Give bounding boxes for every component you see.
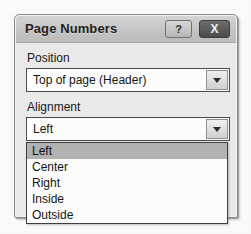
alignment-dropdown-arrow-button[interactable] bbox=[206, 119, 228, 139]
position-dropdown-arrow-button[interactable] bbox=[206, 70, 228, 90]
dropdown-option-label: Inside bbox=[32, 192, 64, 206]
alignment-dropdown-list[interactable]: LeftCenterRightInsideOutside bbox=[26, 142, 228, 224]
dropdown-option[interactable]: Left bbox=[27, 143, 227, 159]
dropdown-option-label: Right bbox=[32, 176, 60, 190]
dropdown-option-label: Left bbox=[32, 144, 52, 158]
alignment-combobox[interactable]: Left bbox=[26, 117, 230, 141]
close-button[interactable]: X bbox=[199, 20, 230, 38]
question-mark-icon: ? bbox=[175, 24, 182, 35]
alignment-combobox-value: Left bbox=[27, 122, 206, 136]
dropdown-option-label: Outside bbox=[32, 208, 73, 222]
alignment-label: Alignment bbox=[27, 100, 80, 114]
dropdown-option[interactable]: Inside bbox=[27, 191, 227, 207]
help-button[interactable]: ? bbox=[165, 20, 192, 38]
dropdown-option[interactable]: Outside bbox=[27, 207, 227, 223]
position-combobox-value: Top of page (Header) bbox=[27, 73, 206, 87]
close-x-icon: X bbox=[210, 23, 218, 35]
dialog-title: Page Numbers bbox=[25, 21, 117, 36]
dropdown-option-label: Center bbox=[32, 160, 68, 174]
dialog-titlebar[interactable]: Page Numbers ? X bbox=[16, 16, 236, 43]
position-combobox[interactable]: Top of page (Header) bbox=[26, 68, 230, 92]
chevron-down-icon bbox=[213, 127, 221, 132]
chevron-down-icon bbox=[213, 78, 221, 83]
position-label: Position bbox=[27, 51, 70, 65]
dropdown-option[interactable]: Right bbox=[27, 175, 227, 191]
dropdown-option[interactable]: Center bbox=[27, 159, 227, 175]
